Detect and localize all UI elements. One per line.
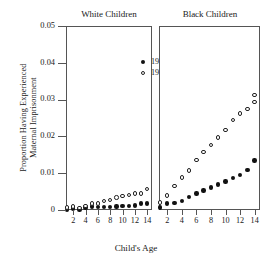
data-point <box>158 200 162 204</box>
data-point <box>127 193 131 197</box>
data-point <box>231 118 235 122</box>
x-tick <box>255 210 256 215</box>
x-tick <box>123 210 124 215</box>
data-point <box>108 205 112 209</box>
data-point <box>145 187 149 191</box>
data-point <box>108 198 112 202</box>
data-point <box>102 199 106 203</box>
y-tick <box>58 26 66 27</box>
data-point <box>158 205 162 209</box>
y-tick-label: 0.04 <box>10 59 55 67</box>
plot-area-white <box>67 27 151 209</box>
filled-circle-icon <box>141 60 145 64</box>
data-point <box>96 201 100 205</box>
open-circle-icon <box>141 71 145 75</box>
x-tick <box>135 210 136 215</box>
y-tick <box>58 173 66 174</box>
x-tick <box>167 210 168 215</box>
y-tick-label: 0.03 <box>10 95 55 103</box>
data-point <box>120 204 124 208</box>
x-tick <box>196 210 197 215</box>
data-point <box>145 201 149 205</box>
data-point <box>133 191 137 195</box>
data-point <box>139 201 143 205</box>
data-point <box>133 203 137 207</box>
data-point <box>231 176 235 180</box>
data-point <box>223 179 227 183</box>
x-tick <box>73 210 74 215</box>
data-point <box>201 188 205 192</box>
data-point <box>216 182 220 186</box>
x-tick <box>182 210 183 215</box>
figure-panel-chart: Proportion Having Experienced Maternal I… <box>0 0 272 265</box>
data-point <box>209 185 213 189</box>
x-tick-label: 14 <box>247 217 263 225</box>
y-axis-label-line1: Proportion Having Experienced <box>19 23 29 213</box>
y-tick-label: 0.05 <box>10 22 55 30</box>
y-tick <box>58 100 66 101</box>
data-point <box>187 195 191 199</box>
data-point <box>180 199 184 203</box>
data-point <box>120 194 124 198</box>
x-tick <box>211 210 212 215</box>
data-point <box>172 184 176 188</box>
y-tick-label: 0.02 <box>10 132 55 140</box>
data-point <box>180 175 184 179</box>
x-tick <box>110 210 111 215</box>
x-tick <box>147 210 148 215</box>
data-point <box>209 143 213 147</box>
data-point <box>194 191 198 195</box>
x-tick <box>86 210 87 215</box>
plot-panel-black-children <box>159 26 260 210</box>
data-point <box>165 193 169 197</box>
y-tick-label: 0.01 <box>10 169 55 177</box>
y-axis-label: Proportion Having Experienced Maternal I… <box>19 23 38 213</box>
x-tick <box>240 210 241 215</box>
data-point <box>201 150 205 154</box>
data-point <box>194 158 198 162</box>
data-point <box>252 158 256 162</box>
data-point <box>252 100 256 104</box>
x-tick-label: 14 <box>139 217 155 225</box>
x-tick <box>226 210 227 215</box>
y-tick <box>58 210 66 211</box>
data-point <box>127 204 131 208</box>
data-point <box>90 201 94 205</box>
data-point <box>65 205 69 209</box>
data-point <box>114 204 118 208</box>
x-axis-label: Child's Age <box>0 243 272 253</box>
y-tick <box>58 136 66 137</box>
plot-panel-white-children: 1978 1990 <box>66 26 152 210</box>
data-point <box>245 168 249 172</box>
x-tick <box>98 210 99 215</box>
y-axis-label-line2: Maternal Imprisonment <box>29 23 39 213</box>
data-point <box>216 135 220 139</box>
data-point <box>252 93 256 97</box>
data-point <box>172 201 176 205</box>
data-point <box>245 107 249 111</box>
data-point <box>102 205 106 209</box>
data-point <box>238 111 242 115</box>
panel-title-black-children: Black Children <box>160 9 260 19</box>
data-point <box>114 195 118 199</box>
data-point <box>238 173 242 177</box>
plot-area-black <box>160 27 259 209</box>
data-point <box>223 128 227 132</box>
data-point <box>165 201 169 205</box>
data-point <box>187 168 191 172</box>
y-tick <box>58 63 66 64</box>
data-point <box>77 206 81 210</box>
panel-title-white-children: White Children <box>67 9 151 19</box>
data-point <box>83 204 87 208</box>
data-point <box>139 191 143 195</box>
y-tick-label: 0 <box>10 206 55 214</box>
